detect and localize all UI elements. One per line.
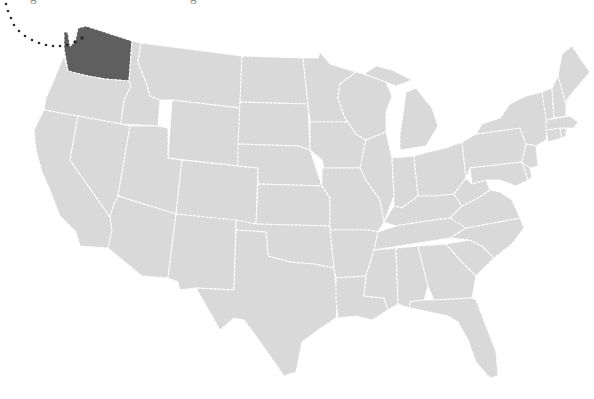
state-wyoming[interactable]	[168, 100, 240, 166]
state-new-mexico[interactable]	[168, 214, 236, 290]
state-ohio[interactable]	[414, 142, 466, 196]
callout-dotted-line	[5, 3, 84, 48]
map-svg	[0, 0, 594, 399]
caption-fragment-left: g	[30, 0, 37, 5]
state-colorado[interactable]	[176, 160, 258, 224]
state-michigan[interactable]	[400, 88, 438, 150]
state-south-dakota[interactable]	[238, 102, 310, 150]
caption-fragment-right: g	[190, 0, 197, 5]
state-north-dakota[interactable]	[240, 56, 308, 104]
state-florida[interactable]	[410, 298, 498, 378]
state-kansas[interactable]	[256, 184, 330, 226]
us-map: g g	[0, 0, 594, 399]
